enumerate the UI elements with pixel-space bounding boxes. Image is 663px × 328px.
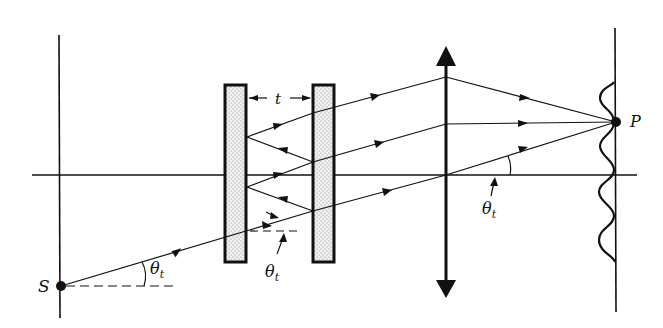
source-plane bbox=[59, 35, 60, 318]
point-p bbox=[611, 117, 621, 127]
arrow-icon bbox=[370, 93, 380, 101]
svg-text:θt: θt bbox=[265, 262, 280, 284]
arrow-icon bbox=[518, 120, 528, 127]
arrow-icon bbox=[278, 147, 288, 154]
gap-annotation: t bbox=[249, 90, 311, 108]
focused-rays bbox=[446, 77, 616, 175]
screen bbox=[615, 28, 616, 312]
gap-label: t bbox=[275, 90, 282, 108]
arrow-icon bbox=[278, 196, 288, 203]
svg-text:θt: θt bbox=[150, 259, 165, 281]
source-label: S bbox=[38, 276, 50, 296]
plate-left bbox=[225, 85, 246, 262]
angle-at-plate: θt bbox=[250, 212, 302, 284]
internal-reflections bbox=[247, 113, 313, 211]
source-point bbox=[56, 281, 66, 291]
arrow-icon bbox=[262, 221, 272, 229]
angle-at-lens: θt bbox=[482, 156, 511, 221]
fringe-pattern bbox=[599, 82, 615, 262]
arrow-icon bbox=[374, 140, 384, 148]
arrow-icon bbox=[382, 188, 392, 196]
arrow-icon bbox=[273, 123, 283, 130]
svg-text:θt: θt bbox=[482, 199, 497, 221]
angle-at-source: θt bbox=[66, 259, 174, 286]
converging-lens bbox=[436, 46, 456, 298]
point-label: P bbox=[629, 112, 641, 131]
arrow-icon bbox=[519, 94, 530, 101]
fabry-perot-diagram: t P bbox=[0, 0, 663, 328]
